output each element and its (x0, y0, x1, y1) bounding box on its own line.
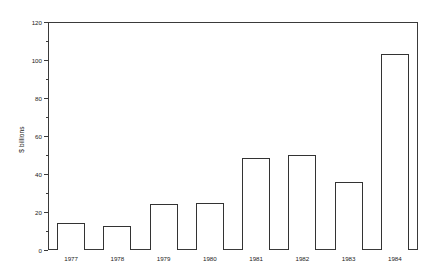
x-axis-tick-labels: 19771978197919801981198219831984 (48, 254, 418, 268)
x-tick-label-1979: 1979 (141, 254, 187, 264)
y-tick-label: 100 (32, 56, 42, 65)
bar-1981 (242, 158, 270, 250)
bar-chart-figure: $ billions 020406080100120 1977197819791… (0, 0, 433, 279)
bar-1977 (57, 223, 85, 250)
bar-1982 (288, 155, 316, 250)
y-tick-label: 0 (39, 246, 42, 255)
x-tick-label-1984: 1984 (372, 254, 418, 264)
bar-1980 (196, 203, 224, 251)
bar-1978 (103, 226, 131, 250)
x-tick-label-1982: 1982 (279, 254, 325, 264)
y-tick-label: 60 (35, 132, 42, 141)
y-tick-label: 20 (35, 208, 42, 217)
bar-1979 (150, 204, 178, 250)
y-tick-label: 80 (35, 94, 42, 103)
bar-1983 (335, 182, 363, 250)
x-tick-label-1978: 1978 (94, 254, 140, 264)
x-tick-label-1981: 1981 (233, 254, 279, 264)
y-tick-label: 120 (32, 18, 42, 27)
x-tick-label-1977: 1977 (48, 254, 94, 264)
bar-1984 (381, 54, 409, 250)
y-axis-title: $ billions (14, 0, 28, 279)
x-tick-label-1980: 1980 (187, 254, 233, 264)
x-tick-label-1983: 1983 (326, 254, 372, 264)
bars-layer (48, 22, 418, 250)
y-tick-label: 40 (35, 170, 42, 179)
